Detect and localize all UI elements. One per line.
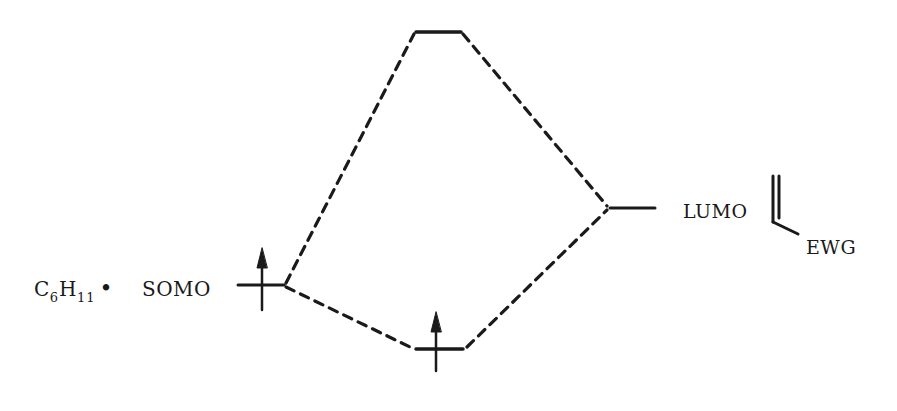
formula-carbon: C bbox=[34, 277, 50, 301]
formula-hydrogen: H bbox=[59, 277, 77, 301]
formula-carbon-count: 6 bbox=[50, 290, 59, 305]
radical-dot: • bbox=[100, 276, 113, 301]
somo-electron-up-arrow-icon bbox=[257, 248, 267, 310]
ewg-label: EWG bbox=[806, 236, 856, 258]
mo-diagram bbox=[0, 0, 897, 411]
somo-label: SOMO bbox=[142, 277, 211, 301]
bonding-electron-up-arrow-icon bbox=[431, 312, 441, 371]
radical-formula: C6H11• bbox=[34, 276, 113, 301]
lumo-label: LUMO bbox=[683, 200, 748, 222]
alkene-structure-icon bbox=[773, 176, 798, 234]
formula-hydrogen-count: 11 bbox=[77, 290, 96, 305]
correlation-lines bbox=[286, 34, 607, 347]
